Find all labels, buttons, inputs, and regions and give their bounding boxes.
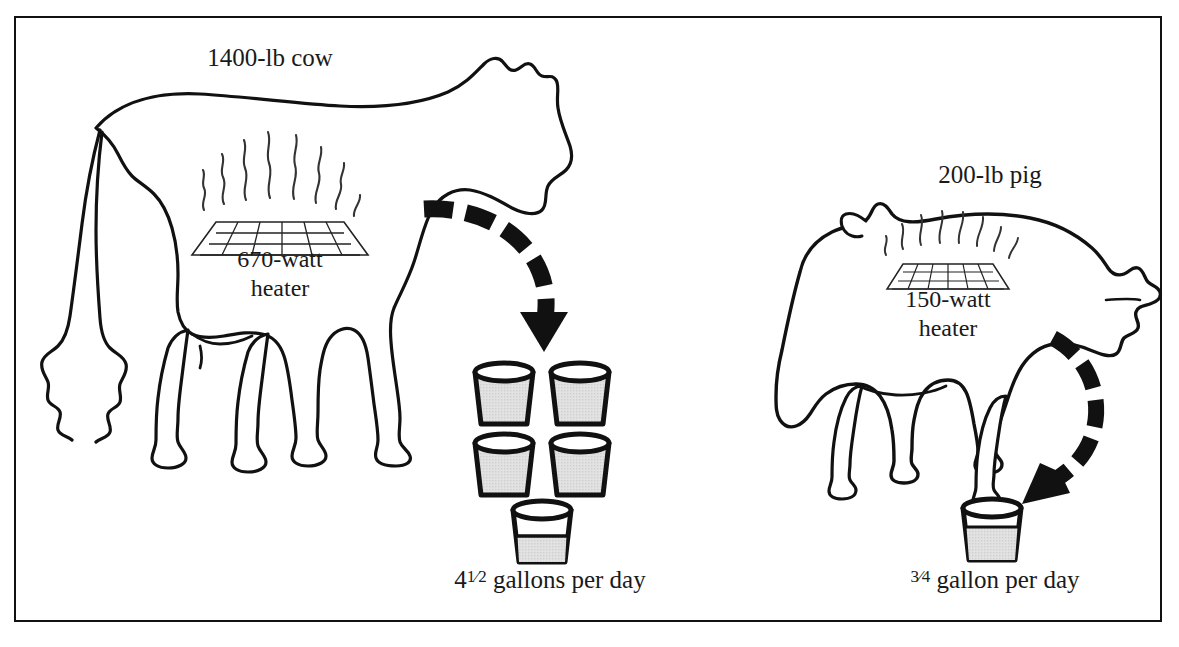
diagram-page: 1400-lb cow 670-watt heater 41⁄2 gallons… [0, 0, 1179, 647]
pig-heater-label-line2: heater [848, 314, 1048, 343]
pig-heater-label-line1: 150-watt [848, 285, 1048, 314]
cow-dashed-curved-arrow-down-icon [424, 209, 568, 352]
bucket-three-quarter-filled [963, 499, 1021, 560]
cow-heater-label-line1: 670-watt [180, 245, 380, 274]
pig-total-suffix: gallon per day [930, 566, 1079, 593]
pig-total-denominator: 4 [922, 567, 931, 586]
bucket-half-filled [513, 501, 571, 562]
cow-animal-label: 1400-lb cow [130, 43, 410, 74]
bucket-full [475, 434, 533, 495]
cow-total-label: 41⁄2 gallons per day [385, 565, 715, 596]
pig-silhouette-icon [776, 204, 1160, 509]
pig-total-label: 3⁄4 gallon per day [845, 565, 1145, 596]
cow-total-suffix: gallons per day [487, 566, 646, 593]
bucket-full [551, 434, 609, 495]
cow-heater-label: 670-watt heater [180, 245, 380, 304]
cow-heater-label-line2: heater [180, 274, 380, 303]
cow-total-fraction: 1⁄2 [467, 567, 487, 586]
cow-total-numerator: 1 [467, 567, 476, 586]
cow-total-prefix: 4 [454, 566, 467, 593]
pig-animal-label: 200-lb pig [880, 160, 1100, 191]
pig-heater-label: 150-watt heater [848, 285, 1048, 344]
bucket-full [551, 363, 609, 424]
pig-total-numerator: 3 [910, 567, 919, 586]
pig-dashed-curved-arrow-down-left-icon [1022, 338, 1096, 504]
cow-total-denominator: 2 [478, 567, 487, 586]
pig-total-fraction: 3⁄4 [910, 567, 930, 586]
bucket-full [475, 363, 533, 424]
